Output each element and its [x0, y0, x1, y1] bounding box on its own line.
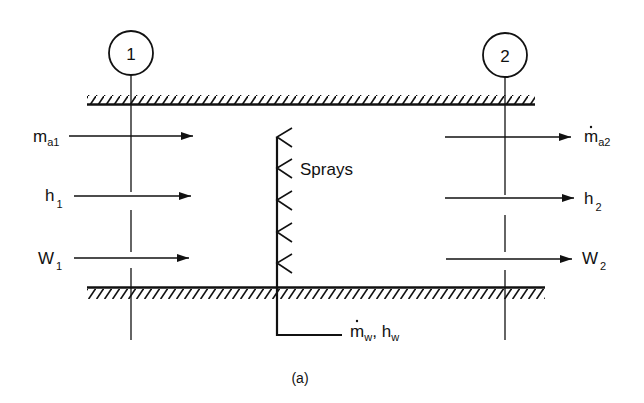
section-2-number: 2 — [500, 47, 509, 66]
bottom-duct-wall — [87, 288, 545, 300]
sprays-label: Sprays — [300, 160, 353, 179]
outlet-mass-flow-label: ma2 — [584, 126, 610, 148]
svg-text:mw,hw: mw,hw — [350, 322, 399, 343]
svg-text:ma2: ma2 — [584, 127, 610, 148]
air-washer-diagram: 1 2 ma1 h1 W1 ma2 h2 W2 — [0, 0, 644, 403]
outlet-enthalpy-label: h2 — [584, 189, 602, 213]
inlet-mass-flow-label: ma1 — [33, 127, 59, 148]
inlet-enthalpy-label: h1 — [45, 186, 63, 210]
top-duct-wall — [87, 95, 535, 105]
outlet-humidity-label: W2 — [582, 249, 606, 272]
water-supply-label: mw,hw — [350, 320, 399, 343]
section-1-number: 1 — [126, 45, 135, 64]
outlet-arrows — [445, 137, 574, 259]
figure-caption: (a) — [291, 370, 308, 386]
inlet-humidity-label: W1 — [38, 249, 62, 272]
spray-nozzle-icon — [277, 128, 292, 273]
